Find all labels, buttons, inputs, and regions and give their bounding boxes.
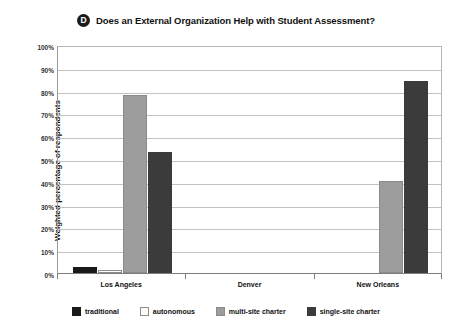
chart-legend: traditionalautonomousmulti-site charters… [0, 307, 452, 316]
legend-swatch-icon [140, 307, 149, 316]
legend-label: traditional [85, 308, 119, 315]
y-tick-label: 30% [41, 203, 54, 210]
legend-label: autonomous [153, 308, 195, 315]
panel-letter-badge: D [77, 14, 90, 27]
x-tick [57, 274, 58, 279]
bar-group [315, 47, 443, 273]
x-category-label: Los Angeles [100, 281, 141, 288]
bar-group [186, 47, 314, 273]
y-tick-label: 60% [41, 135, 54, 142]
y-tick-label: 0% [45, 272, 54, 279]
x-tick [185, 274, 186, 279]
y-tick-label: 50% [41, 158, 54, 165]
bar-traditional [73, 267, 97, 273]
x-axis: Los AngelesDenverNew Orleans [57, 274, 442, 296]
y-tick-label: 80% [41, 89, 54, 96]
bar-single-site-charter [404, 81, 428, 273]
y-tick-label: 70% [41, 112, 54, 119]
x-category-label: Denver [238, 281, 262, 288]
y-tick-label: 90% [41, 66, 54, 73]
legend-label: single-site charter [320, 308, 380, 315]
legend-swatch-icon [72, 307, 81, 316]
bar-multi-site-charter [123, 95, 147, 273]
x-tick [314, 274, 315, 279]
chart-title-text: Does an External Organization Help with … [96, 15, 375, 26]
legend-swatch-icon [216, 307, 225, 316]
y-tick-label: 100% [37, 44, 54, 51]
x-category-label: New Orleans [357, 281, 399, 288]
legend-label: multi-site charter [229, 308, 286, 315]
bars-layer [58, 47, 441, 273]
y-tick-label: 40% [41, 180, 54, 187]
legend-item[interactable]: multi-site charter [216, 307, 286, 316]
bar-single-site-charter [148, 152, 172, 273]
bar-group [58, 47, 186, 273]
legend-item[interactable]: traditional [72, 307, 119, 316]
x-tick [441, 274, 442, 279]
chart-title: D Does an External Organization Help wit… [0, 14, 452, 27]
bar-multi-site-charter [379, 181, 403, 273]
legend-item[interactable]: autonomous [140, 307, 195, 316]
legend-item[interactable]: single-site charter [307, 307, 380, 316]
plot-area: 0%10%20%30%40%50%60%70%80%90%100% [57, 46, 442, 274]
y-tick-label: 20% [41, 226, 54, 233]
y-tick-label: 10% [41, 249, 54, 256]
legend-swatch-icon [307, 307, 316, 316]
bar-autonomous [98, 270, 122, 273]
